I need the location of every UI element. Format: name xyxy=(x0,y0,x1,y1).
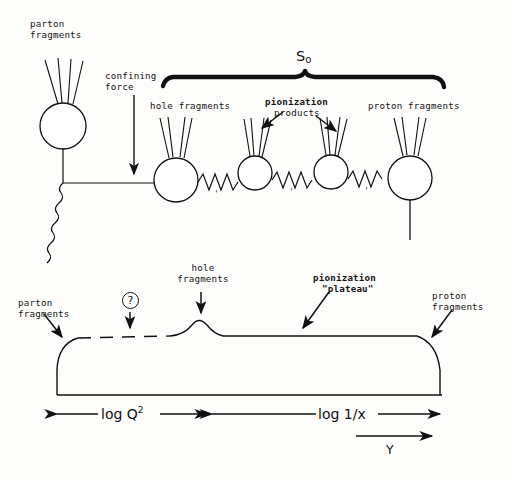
proton-blob xyxy=(388,156,432,200)
pionization-blob-1-group xyxy=(238,118,272,190)
bottom-plateau-label: "plateau" xyxy=(322,283,374,294)
s-naught-symbol: S xyxy=(296,48,305,64)
pionization-plateau-arrow xyxy=(303,292,329,328)
figure-root: partonfragments confiningforce hole frag… xyxy=(0,0,509,477)
spring-3 xyxy=(348,171,382,187)
pionization-blob-2 xyxy=(314,155,348,189)
top-hole-fragments-label: hole fragments xyxy=(150,100,230,111)
s-naught-brace xyxy=(163,71,444,87)
axis-log-1x-label: log 1/x xyxy=(318,406,366,422)
proton-blob-group xyxy=(388,117,432,240)
curve-dashed-region xyxy=(78,336,170,338)
confining-force-label: confiningforce xyxy=(105,70,157,92)
pionization-blob-1 xyxy=(238,156,272,190)
bottom-pionization-label: pionization xyxy=(313,272,376,283)
pionization-arrow-right xyxy=(316,116,336,131)
curve-proton-edge xyxy=(417,336,440,395)
bottom-proton-fragments-label: protonfragments xyxy=(432,290,484,312)
top-parton-fragments-label: partonfragments xyxy=(30,18,82,40)
curve-parton-edge xyxy=(57,338,78,395)
curve-hole-bump xyxy=(170,321,223,337)
spring-2 xyxy=(272,172,312,188)
figure-canvas xyxy=(0,0,509,477)
pionization-products-label: products xyxy=(274,107,320,118)
proton-fragments-arrow xyxy=(432,310,452,337)
hole-fragment-blob-group xyxy=(154,117,198,202)
axis-rapidity-label: Y xyxy=(386,442,394,457)
bottom-hole-fragments-label: holefragments xyxy=(175,262,231,284)
hole-fragment-blob xyxy=(154,158,198,202)
s-naught-label: So xyxy=(296,48,311,64)
axis-log-q2-exponent: 2 xyxy=(138,405,144,415)
gluon-wavy-line xyxy=(47,183,63,263)
question-mark-badge: ? xyxy=(122,292,139,309)
axis-log-q2-label: log Q2 xyxy=(101,405,144,422)
parton-blob xyxy=(40,103,86,149)
bottom-parton-fragments-label: partonfragments xyxy=(18,297,70,319)
s-naught-subscript: o xyxy=(305,54,311,65)
top-proton-fragments-label: proton fragments xyxy=(368,100,460,111)
pionization-label: pionization xyxy=(265,96,328,107)
spring-tick-2: ' xyxy=(289,188,294,197)
spring-1 xyxy=(198,174,238,190)
parton-blob-group xyxy=(40,58,86,183)
spring-tick-1: ' xyxy=(214,190,219,199)
spring-tick-3: ' xyxy=(364,187,369,196)
axis-log-q2-text: log Q xyxy=(101,406,138,422)
